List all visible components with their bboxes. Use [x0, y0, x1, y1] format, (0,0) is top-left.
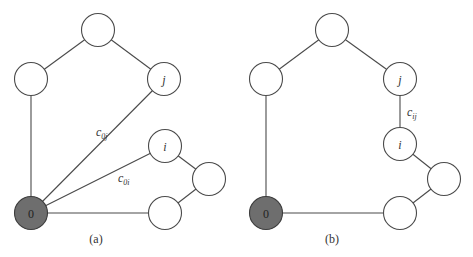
- edge-label-cij: cij: [407, 105, 418, 121]
- caption-b: (b): [325, 232, 339, 246]
- node-i-label: i: [163, 140, 166, 154]
- node-i-label: i: [398, 138, 401, 152]
- node-depot-label: 0: [263, 207, 269, 221]
- edge-depot-j: [31, 79, 164, 213]
- node-left: [15, 63, 48, 96]
- panel-b: j i 0 cij (b): [250, 14, 461, 247]
- node-bottom-right: [384, 197, 417, 230]
- node-right: [428, 163, 461, 196]
- node-right: [193, 163, 226, 196]
- edge-label-c0i: c0i: [118, 171, 130, 187]
- savings-diagram: j i 0 c0j c0i (a) j i 0 cij (b): [0, 0, 473, 257]
- node-bottom-right: [149, 197, 182, 230]
- caption-a: (a): [89, 232, 102, 246]
- panel-a: j i 0 c0j c0i (a): [15, 14, 226, 247]
- node-depot-label: 0: [28, 207, 34, 221]
- node-left: [250, 63, 283, 96]
- edge-label-c0j: c0j: [96, 125, 108, 141]
- node-top: [82, 14, 115, 47]
- edge-depot-i: [31, 146, 165, 213]
- node-top: [316, 14, 349, 47]
